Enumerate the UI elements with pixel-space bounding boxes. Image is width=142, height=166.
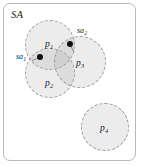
- service-area-label: SA: [11, 10, 23, 21]
- service-area-diagram: SA p1 p2 p3 p4 sa1 sa2: [0, 0, 142, 166]
- region-label-p3: p3: [76, 59, 84, 69]
- region-label-p4: p4: [100, 124, 108, 134]
- region-label-p1: p1: [45, 40, 53, 50]
- region-label-p2: p2: [45, 79, 53, 89]
- access-point-sa1: [37, 54, 43, 60]
- access-point-label-sa2: sa2: [77, 27, 87, 35]
- access-point-sa2: [67, 41, 73, 47]
- access-point-label-sa1: sa1: [16, 53, 26, 61]
